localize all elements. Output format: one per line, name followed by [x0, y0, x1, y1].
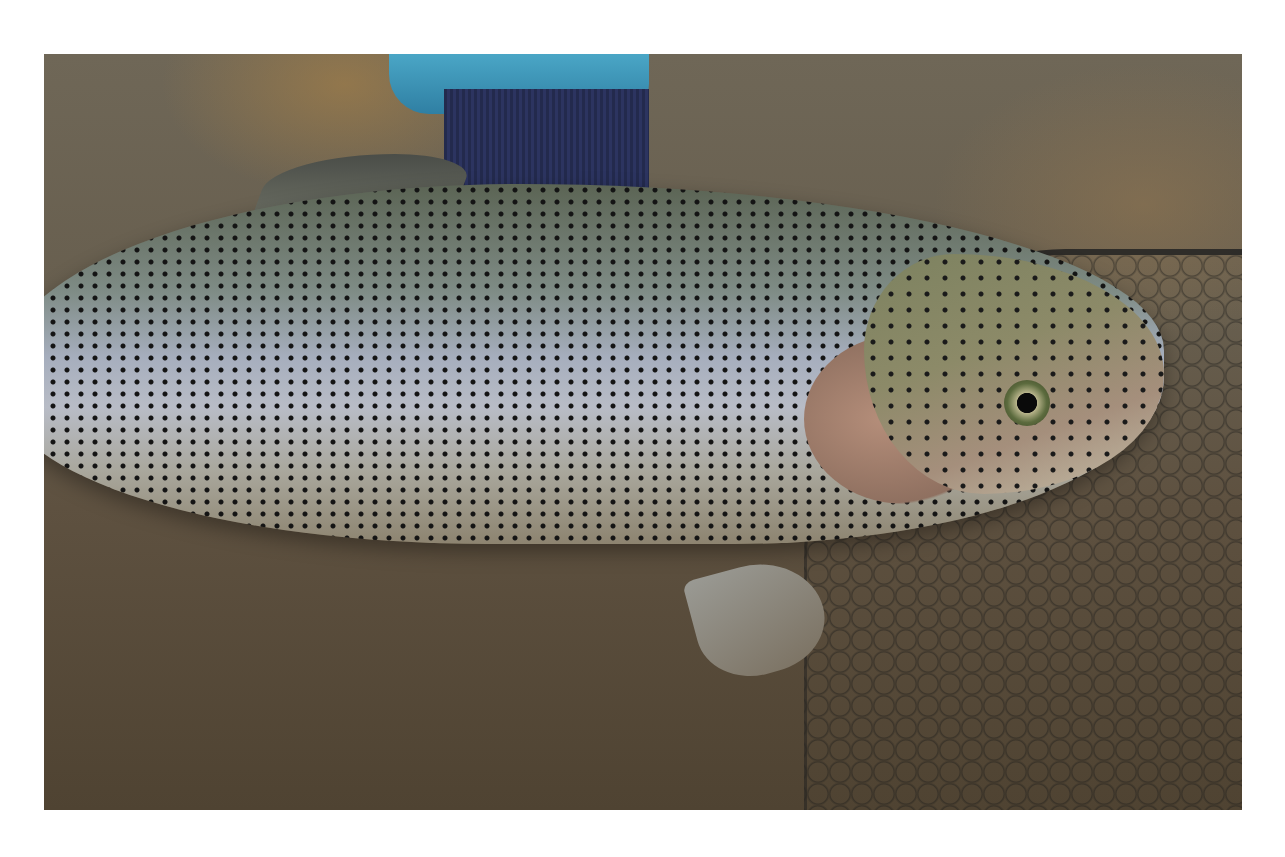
- trout-eye: [1004, 380, 1050, 426]
- trout-photo: Rainbow trout held in shallow muddy wate…: [44, 54, 1242, 810]
